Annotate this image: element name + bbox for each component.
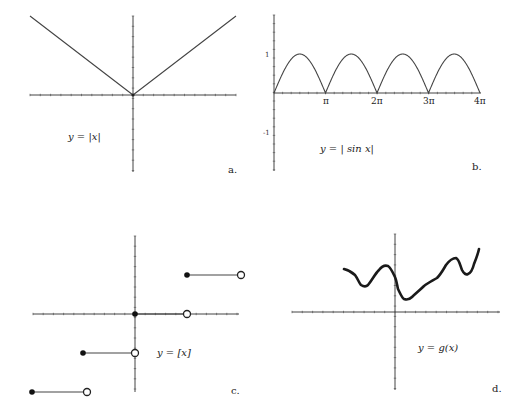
panel-label-b: b. [472,161,482,172]
panel-label-c: c. [231,385,240,396]
open-dot [132,350,139,357]
panel-a: y = |x| a. [30,16,237,175]
closed-dot [184,272,190,278]
open-dot [84,389,91,396]
panel-c: y = [x] c. [29,236,244,396]
x-tick-pi: π [323,96,329,106]
x-tick-2pi: 2π [371,96,383,106]
closed-dot [29,389,35,395]
closed-dot [80,350,86,356]
equation-b: y = | sin x| [319,143,374,155]
y-tick-neg1: -1 [263,129,270,137]
abs-sin-curve [274,54,480,93]
equation-d: y = g(x) [417,342,458,353]
open-dot [238,272,245,279]
panel-label-d: d. [492,383,502,394]
figure-canvas: y = |x| a. 1 -1 π 2π 3π 4π y = | sin x| … [0,0,522,408]
equation-a: y = |x| [67,131,101,143]
panel-d: y = g(x) d. [292,234,502,394]
closed-dot [132,311,138,317]
x-tick-4pi: 4π [474,96,486,106]
y-tick-1: 1 [265,51,269,59]
panel-b: 1 -1 π 2π 3π 4π y = | sin x| b. [263,15,486,172]
x-tick-3pi: 3π [423,96,435,106]
panel-label-a: a. [228,164,237,175]
equation-c: y = [x] [156,347,191,358]
g-curve [344,249,479,299]
open-dot [184,311,191,318]
